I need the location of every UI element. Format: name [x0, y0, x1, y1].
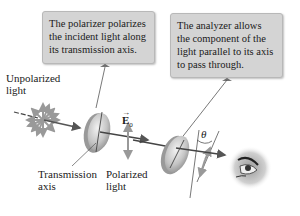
- label-e-field: → E0: [122, 114, 133, 131]
- callout-analyzer-line: The analyzer allows: [177, 19, 276, 32]
- starburst-light-source-icon: [27, 104, 59, 136]
- label-line: axis: [38, 180, 97, 192]
- callout-polarizer: The polarizer polarizes the incident lig…: [42, 11, 155, 64]
- label-line: Unpolarized: [6, 72, 60, 84]
- callout-analyzer-line: the component of the: [177, 32, 276, 45]
- label-line: light: [6, 84, 60, 96]
- callout-pointer-polarizer: [96, 64, 110, 108]
- label-unpolarized-light: Unpolarized light: [6, 72, 60, 96]
- incoming-beam: [14, 112, 38, 118]
- label-line: Polarized: [106, 168, 148, 180]
- transmission-axis-pointer: [72, 143, 96, 166]
- label-transmission-axis: Transmission axis: [38, 168, 97, 192]
- label-line: light: [106, 180, 148, 192]
- label-line: Transmission: [38, 168, 97, 180]
- e-subscript: 0: [129, 121, 133, 129]
- callout-analyzer-line: light parallel to its axis: [177, 45, 276, 58]
- eye-icon: [228, 146, 272, 190]
- callout-polarizer-line: the incident light along: [49, 30, 148, 43]
- analyzer-disk-icon: [156, 132, 194, 178]
- callout-polarizer-line: The polarizer polarizes: [49, 17, 148, 30]
- label-theta: θ: [201, 128, 206, 140]
- callout-polarizer-line: its transmission axis.: [49, 43, 148, 56]
- callout-analyzer-line: to pass through.: [177, 58, 276, 71]
- label-polarized-light: Polarized light: [106, 168, 148, 192]
- callout-analyzer: The analyzer allows the component of the…: [170, 13, 283, 78]
